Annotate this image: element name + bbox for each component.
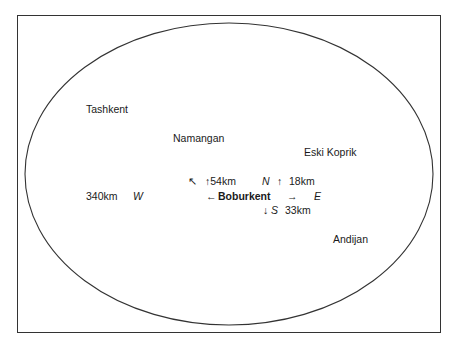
northwest-arrow-icon: ↖ [188,175,197,187]
city-andijan: Andijan [333,233,368,245]
north-distance: ↑54km [205,175,236,187]
region-boundary-ellipse [0,0,458,346]
city-eski-koprik: Eski Koprik [304,146,357,158]
west-distance: 340km [86,190,118,202]
west-label: W [133,190,143,202]
south-label: S [271,204,278,216]
city-tashkent: Tashkent [86,103,128,115]
north-label: N [262,175,270,187]
east-label: E [314,190,321,202]
west-arrow-icon: ← [206,190,217,202]
south-arrow-icon: ↓ [263,204,268,216]
city-namangan: Namangan [173,132,224,144]
center-city-boburkent: Boburkent [218,190,271,202]
east-arrow-icon: → [287,190,298,202]
north-east-distance: 18km [289,175,315,187]
north-arrow-icon: ↑ [277,175,282,187]
south-distance: 33km [285,204,311,216]
